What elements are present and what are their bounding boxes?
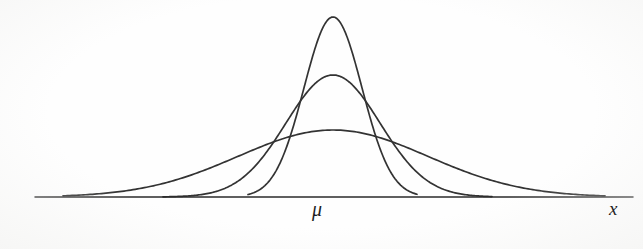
curves-group xyxy=(63,17,605,197)
normal-distribution-figure: μ x xyxy=(0,0,643,249)
curve-medium-sigma xyxy=(163,75,492,197)
mean-label: μ xyxy=(312,199,322,219)
curve-small-sigma xyxy=(248,17,417,195)
x-axis-label: x xyxy=(609,199,617,218)
curve-large-sigma xyxy=(63,130,605,196)
